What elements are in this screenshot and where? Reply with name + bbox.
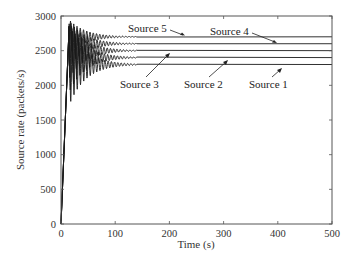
- y-tick-label: 2500: [35, 45, 56, 56]
- annotation-source-5: Source 5: [128, 22, 167, 34]
- line-chart: 0100200300400500050010001500200025003000…: [0, 0, 355, 261]
- annotations: Source 5 Source 4 Source 3 Source 2 Sour…: [120, 22, 288, 90]
- x-tick-label: 200: [162, 228, 178, 239]
- y-tick-label: 1500: [35, 115, 56, 126]
- x-tick-label: 400: [270, 228, 286, 239]
- x-tick-label: 300: [216, 228, 232, 239]
- series-line-source-2: [61, 26, 332, 224]
- y-tick-label: 3000: [35, 11, 56, 22]
- y-tick-label: 1000: [35, 149, 56, 160]
- x-axis-label: Time (s): [177, 238, 215, 251]
- annotation-source-3: Source 3: [120, 78, 159, 90]
- x-tick-label: 500: [324, 228, 340, 239]
- series-lines: [61, 21, 332, 224]
- y-axis-label: Source rate (packets/s): [14, 70, 27, 171]
- annotation-source-2: Source 2: [184, 78, 223, 90]
- annotation-source-1: Source 1: [249, 78, 288, 90]
- y-tick-label: 500: [40, 184, 56, 195]
- arrow-source-4: [252, 33, 275, 42]
- annotation-source-4: Source 4: [210, 25, 249, 37]
- y-tick-label: 2000: [35, 80, 56, 91]
- plot-frame: [61, 16, 332, 224]
- x-tick-label: 100: [107, 228, 123, 239]
- arrow-source-3: [146, 55, 168, 77]
- x-tick-label: 0: [58, 228, 63, 239]
- y-tick-label: 0: [51, 219, 56, 230]
